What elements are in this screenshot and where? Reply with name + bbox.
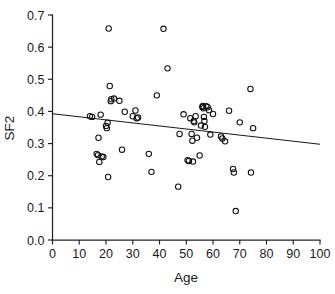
y-axis-tick-labels: 0.00.10.20.30.40.50.60.7 xyxy=(27,9,44,248)
data-point-marker xyxy=(96,135,101,140)
data-point-marker xyxy=(107,83,112,88)
axes xyxy=(53,15,321,240)
y-tick-label: 0.2 xyxy=(27,169,44,183)
data-point-marker xyxy=(231,170,236,175)
y-tick-label: 0.3 xyxy=(27,137,44,151)
data-points xyxy=(87,26,256,214)
y-tick-label: 0.4 xyxy=(27,105,44,119)
data-point-marker xyxy=(248,170,253,175)
data-point-marker xyxy=(161,26,166,31)
data-point-marker xyxy=(233,208,238,213)
data-point-marker xyxy=(210,111,215,116)
x-tick-label: 90 xyxy=(286,247,300,261)
y-tick-label: 0.7 xyxy=(27,9,44,23)
data-point-marker xyxy=(106,26,111,31)
data-point-marker xyxy=(119,147,124,152)
x-axis-tick-labels: 0102030405060708090100 xyxy=(49,247,330,261)
data-point-marker xyxy=(122,109,127,114)
x-axis-title: Age xyxy=(174,270,198,285)
y-tick-label: 0.0 xyxy=(27,234,44,248)
data-point-marker xyxy=(197,153,202,158)
data-point-marker xyxy=(98,112,103,117)
x-tick-label: 0 xyxy=(49,247,56,261)
y-axis-ticks xyxy=(48,15,53,240)
data-point-marker xyxy=(193,114,198,119)
data-point-marker xyxy=(237,120,242,125)
data-point-marker xyxy=(208,132,213,137)
data-point-marker xyxy=(133,108,138,113)
data-point-marker xyxy=(177,131,182,136)
data-point-marker xyxy=(194,135,199,140)
x-tick-label: 20 xyxy=(99,247,113,261)
y-tick-label: 0.6 xyxy=(27,41,44,55)
y-tick-label: 0.1 xyxy=(27,201,44,215)
data-point-marker xyxy=(146,151,151,156)
data-point-marker xyxy=(105,174,110,179)
data-point-marker xyxy=(176,184,181,189)
x-tick-label: 70 xyxy=(233,247,247,261)
x-tick-label: 50 xyxy=(179,247,193,261)
data-point-marker xyxy=(189,131,194,136)
x-tick-label: 60 xyxy=(206,247,220,261)
y-axis-title: SF2 xyxy=(2,116,17,141)
x-tick-label: 100 xyxy=(310,247,331,261)
chart-canvas: 0.00.10.20.30.40.50.60.7 010203040506070… xyxy=(0,0,335,294)
x-axis-ticks xyxy=(53,240,321,245)
data-point-marker xyxy=(154,93,159,98)
scatter-plot-figure: 0.00.10.20.30.40.50.60.7 010203040506070… xyxy=(0,0,335,294)
data-point-marker xyxy=(149,169,154,174)
x-tick-label: 30 xyxy=(126,247,140,261)
x-tick-label: 10 xyxy=(72,247,86,261)
x-tick-label: 80 xyxy=(260,247,274,261)
data-point-marker xyxy=(248,86,253,91)
x-tick-label: 40 xyxy=(153,247,167,261)
regression-line xyxy=(53,114,321,145)
data-point-marker xyxy=(226,108,231,113)
data-point-marker xyxy=(97,159,102,164)
data-point-marker xyxy=(165,66,170,71)
data-point-marker xyxy=(181,112,186,117)
data-point-marker xyxy=(117,98,122,103)
y-tick-label: 0.5 xyxy=(27,73,44,87)
data-point-marker xyxy=(250,125,255,130)
